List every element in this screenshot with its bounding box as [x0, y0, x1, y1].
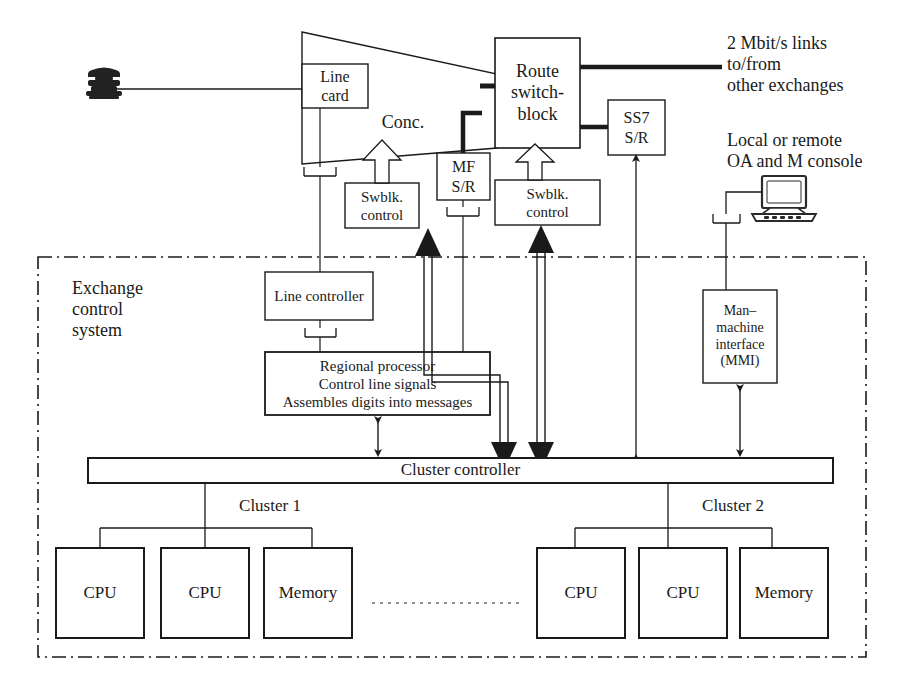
cluster2-unit-label-0: CPU [537, 548, 625, 638]
line-controller-tap-bracket [305, 328, 336, 337]
cluster1-unit-label-2: Memory [264, 548, 352, 638]
swblk-right-hollow-arrow [516, 144, 554, 180]
telephone-icon [86, 68, 122, 100]
cluster2-unit-label-2: Memory [740, 548, 828, 638]
swblk-control-right-label: Swblk. control [495, 180, 600, 225]
swblk-control-left-label: Swblk. control [345, 183, 419, 228]
computer-monitor-icon [752, 176, 816, 221]
regional-processor-label: Regional processor Control line signals … [265, 352, 490, 415]
diagram-canvas: Line card Conc. MF S/R Route switch- blo… [0, 0, 916, 692]
mf-sr-tap-bracket [447, 207, 479, 216]
control-bus-right [537, 250, 545, 445]
control-bus-left-arrowhead-up [415, 228, 441, 256]
cluster1-unit-label-0: CPU [56, 548, 144, 638]
ss7-sr-label: SS7 S/R [608, 100, 665, 155]
cluster2-unit-label-1: CPU [639, 548, 727, 638]
control-bus-right-arrowhead-up [528, 225, 554, 253]
line-card-label: Line card [302, 64, 368, 108]
mf-sr-label: MF S/R [437, 153, 490, 200]
cluster-controller-label: Cluster controller [88, 458, 833, 483]
cluster1-unit-label-1: CPU [161, 548, 249, 638]
mmi-label: Man– machine interface (MMI) [703, 290, 777, 383]
control-bus-left [424, 253, 508, 445]
console-cable [726, 192, 762, 214]
line-controller-label: Line controller [265, 272, 373, 320]
route-switch-block-label: Route switch- block [495, 38, 580, 148]
console-tap-bracket [713, 214, 740, 223]
line-card-tap-bracket [304, 167, 336, 176]
